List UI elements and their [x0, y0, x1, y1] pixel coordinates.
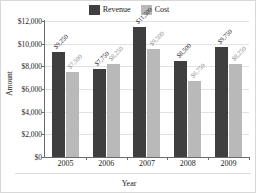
y-axis-tick-label: $2,000: [21, 130, 42, 139]
x-axis-tick-label: 2009: [208, 159, 249, 168]
legend-label-cost: Cost: [155, 5, 170, 15]
bar-revenue-2005: [52, 52, 65, 157]
y-axis-tick-label: $12,000: [18, 17, 42, 26]
bar-cost-2009: [229, 64, 242, 158]
bar-cost-2006: [107, 64, 120, 158]
x-axis-tick-label: 2008: [167, 159, 208, 168]
bar-group: $7,750$8,250: [86, 21, 127, 157]
bar-group: $9,750$8,250: [208, 21, 249, 157]
bar-value-label: $8,250: [230, 44, 247, 61]
bar-revenue-2006: [93, 69, 106, 157]
legend-label-revenue: Revenue: [103, 5, 131, 15]
x-axis-tick-label: 2005: [45, 159, 86, 168]
x-axis-tick-label: 2007: [127, 159, 168, 168]
bar-group: $9,250$7,500: [45, 21, 86, 157]
bar-revenue-2009: [215, 47, 228, 158]
y-axis-title: Amount: [5, 60, 14, 108]
bar-group: $11,500$9,500: [127, 21, 168, 157]
y-axis-tick-mark: [42, 157, 45, 158]
y-axis-tick-label: $6,000: [21, 85, 42, 94]
x-axis-title-rule: [15, 173, 251, 174]
chart-legend: Revenue Cost: [1, 3, 256, 17]
x-axis-line: [44, 157, 250, 158]
bar-value-label: $8,250: [107, 44, 124, 61]
bar-value-label: $9,250: [52, 33, 69, 50]
bar-value-label: $7,500: [66, 53, 83, 70]
y-axis-tick-label: $0: [35, 153, 43, 162]
plot-area: $0$2,000$4,000$6,000$8,000$10,000$12,000…: [45, 21, 249, 157]
x-axis-tick-mark: [249, 157, 250, 160]
bar-value-label: $6,750: [189, 61, 206, 78]
legend-item-revenue: Revenue: [89, 5, 131, 15]
bar-revenue-2007: [133, 27, 146, 157]
bar-revenue-2008: [174, 61, 187, 157]
bar-value-label: $9,750: [216, 27, 233, 44]
legend-swatch-revenue: [89, 5, 100, 15]
x-axis-title: Year: [1, 179, 256, 188]
x-axis-tick-label: 2006: [86, 159, 127, 168]
bar-value-label: $9,500: [148, 30, 165, 47]
y-axis-tick-label: $10,000: [18, 39, 42, 48]
bar-chart: Revenue Cost Amount Year $0$2,000$4,000$…: [0, 0, 256, 193]
y-axis-tick-label: $8,000: [21, 62, 42, 71]
bar-cost-2008: [188, 81, 201, 158]
y-axis-tick-label: $4,000: [21, 107, 42, 116]
bar-group: $8,500$6,750: [167, 21, 208, 157]
bar-value-label: $8,500: [175, 42, 192, 59]
bar-cost-2005: [66, 72, 79, 157]
bar-cost-2007: [147, 49, 160, 157]
